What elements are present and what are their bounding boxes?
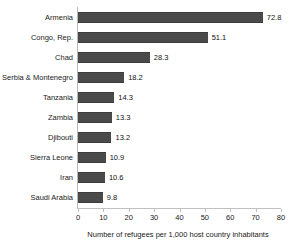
x-tick-label: 60 — [218, 213, 242, 223]
bar-row: Serbia & Montenegro18.2 — [0, 68, 291, 88]
x-tick-mark — [205, 209, 206, 212]
bar-row: Sierra Leone10.9 — [0, 148, 291, 168]
x-tick-label: 70 — [244, 213, 268, 223]
x-tick-mark — [281, 209, 282, 212]
x-tick-mark — [230, 209, 231, 212]
bar — [78, 152, 106, 163]
x-tick-label: 50 — [193, 213, 217, 223]
bar-row: Congo, Rep.51.1 — [0, 28, 291, 48]
x-tick-label: 30 — [142, 213, 166, 223]
bar — [78, 32, 208, 43]
x-tick-label: 0 — [66, 213, 90, 223]
x-tick-mark — [78, 209, 79, 212]
x-tick-label: 40 — [168, 213, 192, 223]
bar-value-label: 13.3 — [116, 113, 131, 123]
category-label: Congo, Rep. — [0, 33, 73, 43]
bar — [78, 12, 263, 23]
x-tick-mark — [129, 209, 130, 212]
bar-value-label: 51.1 — [212, 33, 227, 43]
bar-row: Saudi Arabia9.8 — [0, 188, 291, 208]
bar-row: Zambia13.3 — [0, 108, 291, 128]
bar-row: Chad28.3 — [0, 48, 291, 68]
bar-row: Armenia72.8 — [0, 8, 291, 28]
bar-chart: Armenia72.8Congo, Rep.51.1Chad28.3Serbia… — [0, 0, 291, 242]
bar-row: Tanzania14.3 — [0, 88, 291, 108]
bar-value-label: 14.3 — [118, 93, 133, 103]
x-tick-mark — [180, 209, 181, 212]
category-label: Armenia — [0, 13, 73, 23]
bar-value-label: 10.9 — [110, 153, 125, 163]
x-tick-mark — [103, 209, 104, 212]
bar-value-label: 9.8 — [107, 193, 117, 203]
x-tick-mark — [154, 209, 155, 212]
x-tick-mark — [256, 209, 257, 212]
bar — [78, 172, 105, 183]
bar-value-label: 72.8 — [267, 13, 282, 23]
bar — [78, 112, 112, 123]
bar — [78, 72, 124, 83]
category-label: Tanzania — [0, 93, 73, 103]
x-tick-label: 10 — [91, 213, 115, 223]
category-label: Saudi Arabia — [0, 193, 73, 203]
bar — [78, 52, 150, 63]
x-tick-label: 20 — [117, 213, 141, 223]
plot-area: Armenia72.8Congo, Rep.51.1Chad28.3Serbia… — [0, 0, 291, 242]
x-axis-title: Number of refugees per 1,000 host countr… — [63, 230, 291, 240]
bar — [78, 132, 111, 143]
bar-row: Iran10.6 — [0, 168, 291, 188]
bar-value-label: 13.2 — [115, 133, 130, 143]
category-label: Sierra Leone — [0, 153, 73, 163]
bar-value-label: 18.2 — [128, 73, 143, 83]
bar-value-label: 28.3 — [154, 53, 169, 63]
bar-row: Djibouti13.2 — [0, 128, 291, 148]
category-label: Djibouti — [0, 133, 73, 143]
bar — [78, 192, 103, 203]
category-label: Chad — [0, 53, 73, 63]
category-label: Iran — [0, 173, 73, 183]
x-tick-label: 80 — [269, 213, 291, 223]
category-label: Zambia — [0, 113, 73, 123]
category-label: Serbia & Montenegro — [0, 73, 73, 83]
bar-value-label: 10.6 — [109, 173, 124, 183]
bar — [78, 92, 114, 103]
